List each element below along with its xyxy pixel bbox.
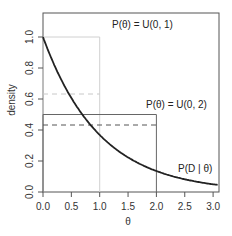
x-axis-label: θ — [125, 216, 131, 227]
y-tick-label: 1.0 — [24, 30, 35, 44]
x-tick-label: 2.5 — [178, 201, 192, 212]
x-tick-label: 0.0 — [36, 201, 50, 212]
annotation-prior-u02: P(θ) = U(0, 2) — [146, 99, 207, 110]
x-tick-label: 1.5 — [121, 201, 135, 212]
annotation-likelihood: P(D | θ) — [178, 163, 212, 174]
x-tick-label: 1.0 — [93, 201, 107, 212]
y-tick-label: 0.8 — [24, 61, 35, 75]
y-tick-label: 0.2 — [24, 154, 35, 168]
y-axis-label: density — [6, 84, 17, 116]
axes-layer: 0.00.51.01.52.02.53.00.00.20.40.60.81.0 — [24, 30, 220, 212]
y-tick-label: 0.4 — [24, 123, 35, 137]
y-tick-label: 0.6 — [24, 92, 35, 106]
annotation-prior-u01: P(θ) = U(0, 1) — [112, 19, 173, 30]
x-tick-label: 3.0 — [206, 201, 220, 212]
y-tick-label: 0.0 — [24, 185, 35, 199]
x-tick-label: 2.0 — [149, 201, 163, 212]
x-tick-label: 0.5 — [64, 201, 78, 212]
chart: 0.00.51.01.52.02.53.00.00.20.40.60.81.0 … — [0, 0, 232, 236]
